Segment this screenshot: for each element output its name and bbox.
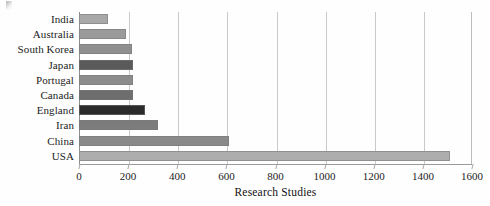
category-label-china: China <box>0 134 74 149</box>
x-tick-label-1600: 1600 <box>461 170 483 182</box>
x-tick <box>373 164 375 169</box>
x-tick-label-1400: 1400 <box>412 170 434 182</box>
bar-row <box>79 149 472 164</box>
category-label-portugal: Portugal <box>0 73 74 88</box>
bar-row <box>79 134 472 149</box>
bar-canada <box>79 90 133 100</box>
category-label-japan: Japan <box>0 58 74 73</box>
bar-row <box>79 58 472 73</box>
x-tick-label-400: 400 <box>169 170 186 182</box>
bar-row <box>79 88 472 103</box>
bar-usa <box>79 151 450 161</box>
bar-australia <box>79 29 126 39</box>
x-tick-label-600: 600 <box>218 170 235 182</box>
bar-row <box>79 42 472 57</box>
category-label-australia: Australia <box>0 27 74 42</box>
x-tick-label-200: 200 <box>120 170 137 182</box>
x-tick-label-1000: 1000 <box>314 170 336 182</box>
x-tick-label-800: 800 <box>267 170 284 182</box>
bar-row <box>79 73 472 88</box>
category-axis-labels: India Australia South Korea Japan Portug… <box>0 12 74 164</box>
category-label-usa: USA <box>0 149 74 164</box>
x-tick-label-0: 0 <box>76 170 82 182</box>
category-label-canada: Canada <box>0 88 74 103</box>
category-label-iran: Iran <box>0 118 74 133</box>
category-label-england: England <box>0 103 74 118</box>
x-tick <box>471 164 473 169</box>
bar-iran <box>79 120 158 130</box>
bar-japan <box>79 60 133 70</box>
bar-south-korea <box>79 44 132 54</box>
bar-row <box>79 12 472 27</box>
x-tick <box>127 164 129 169</box>
bar-row <box>79 27 472 42</box>
bar-row <box>79 103 472 118</box>
bar-england <box>79 105 145 115</box>
category-label-south-korea: South Korea <box>0 42 74 57</box>
bar-portugal <box>79 75 133 85</box>
x-tick <box>78 164 80 169</box>
category-label-india: India <box>0 12 74 27</box>
x-tick <box>324 164 326 169</box>
bar-row <box>79 118 472 133</box>
bar-series <box>79 12 472 164</box>
bar-chart: India Australia South Korea Japan Portug… <box>0 0 490 206</box>
x-axis-title: Research Studies <box>79 186 472 198</box>
bar-india <box>79 14 108 24</box>
scan-artifact <box>6 1 12 10</box>
x-tick <box>422 164 424 169</box>
bar-china <box>79 136 229 146</box>
x-tick <box>275 164 277 169</box>
x-tick-label-1200: 1200 <box>363 170 385 182</box>
